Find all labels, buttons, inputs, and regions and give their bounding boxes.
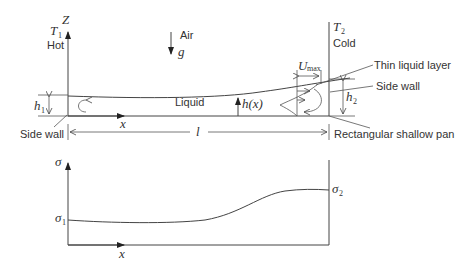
right-side-wall-label: Side wall: [376, 80, 420, 92]
h2-label: h: [346, 89, 353, 104]
gravity-label: g: [178, 44, 185, 59]
sigma-axis-label: σ: [55, 154, 62, 169]
h2-sub: 2: [353, 97, 357, 106]
h1-sub: 1: [41, 106, 45, 115]
thin-layer-leader: [316, 65, 373, 85]
air-label: Air: [180, 29, 194, 41]
bottom-panel: σ x σ 1 σ 2: [55, 154, 343, 261]
sigma1-sub: 1: [62, 218, 66, 227]
cold-label: Cold: [333, 37, 356, 49]
length-label: l: [196, 124, 200, 139]
pan-label: Rectangular shallow pan: [334, 128, 454, 140]
bottom-x-axis-label: x: [118, 246, 125, 261]
left-circulation-icon: [79, 100, 87, 112]
thin-layer-label: Thin liquid layer: [374, 59, 451, 71]
sigma1-label: σ: [55, 210, 62, 225]
left-side-wall-label: Side wall: [20, 128, 64, 140]
pan-leader: [329, 116, 370, 128]
free-surface: [68, 78, 350, 98]
sigma2-label: σ: [332, 181, 339, 196]
z-axis-label: Z: [62, 12, 70, 27]
x-axis-label: x: [119, 116, 126, 131]
t1-label: T: [50, 23, 58, 38]
top-panel: Z T 1 Hot T 2 Cold Air g x Liquid h(x) h…: [20, 12, 454, 140]
right-circulation-icon: [304, 89, 321, 112]
liquid-label: Liquid: [175, 96, 204, 108]
sigma2-sub: 2: [339, 189, 343, 198]
hx-label: h(x): [242, 96, 263, 111]
t2-sub: 2: [341, 27, 345, 36]
thermocapillary-diagram: Z T 1 Hot T 2 Cold Air g x Liquid h(x) h…: [0, 0, 463, 265]
umax-sub: max: [307, 64, 321, 73]
h1-label: h: [34, 98, 41, 113]
t2-label: T: [333, 19, 341, 34]
left-side-wall-leader: [54, 115, 67, 127]
surface-tension-curve: [68, 189, 329, 222]
hot-label: Hot: [47, 39, 64, 51]
